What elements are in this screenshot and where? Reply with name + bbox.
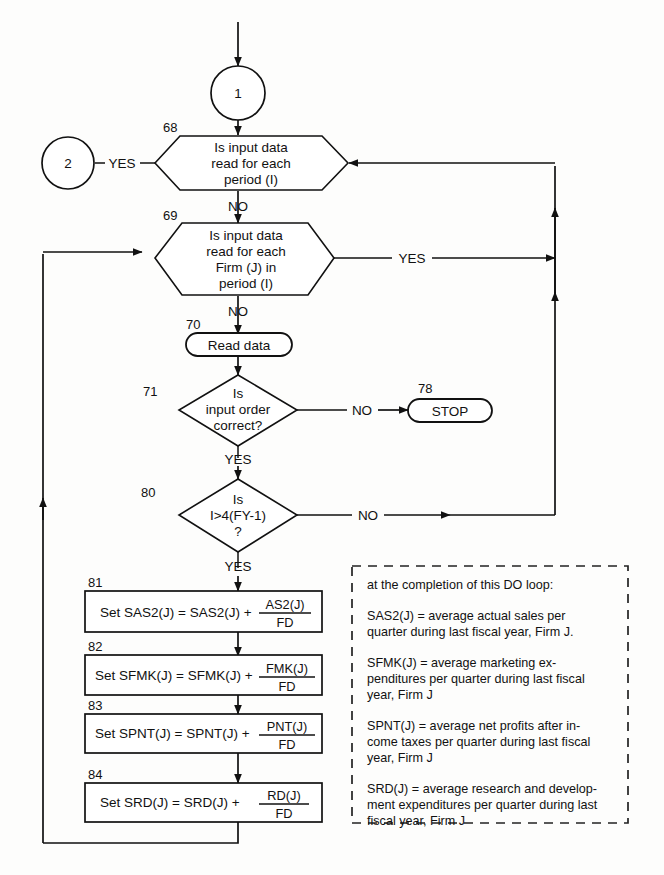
node-80-line-1: Is xyxy=(233,492,244,507)
connector-1-label: 1 xyxy=(234,86,242,101)
node-68-step: 68 xyxy=(163,120,177,135)
node-83-numerator: PNT(J) xyxy=(267,719,308,734)
node-71[interactable]: 71 Is input order correct? xyxy=(143,375,297,446)
node-70[interactable]: 70 Read data xyxy=(186,317,292,356)
node-82-expression: Set SFMK(J) = SFMK(J) + xyxy=(95,668,253,683)
node-83-denominator: FD xyxy=(278,737,295,752)
edge-label-71-yes: YES xyxy=(224,452,251,467)
node-68-line-1: Is input data xyxy=(214,140,288,155)
node-82-step: 82 xyxy=(88,639,102,654)
flowchart-canvas: 1 2 YES 68 Is input data read for each p… xyxy=(0,0,664,875)
node-84-expression: Set SRD(J) = SRD(J) + xyxy=(100,795,240,810)
note-entry-2-line-1: SFMK(J) = average marketing ex- xyxy=(367,656,556,670)
node-80-line-3: ? xyxy=(234,524,242,539)
edge-label-69-yes: YES xyxy=(398,251,425,266)
edge-label-68-yes: YES xyxy=(108,156,135,171)
note-entry-4-line-2: ment expenditures per quarter during las… xyxy=(367,798,598,812)
node-78-stop[interactable]: 78 STOP xyxy=(408,381,492,422)
node-83-step: 83 xyxy=(88,698,102,713)
node-69-line-2: read for each xyxy=(206,244,286,259)
node-81-step: 81 xyxy=(88,575,102,590)
edge-label-71-no: NO xyxy=(352,403,372,418)
node-84-step: 84 xyxy=(88,767,102,782)
node-71-line-2: input order xyxy=(206,402,271,417)
node-82-numerator: FMK(J) xyxy=(266,661,308,676)
edge-label-68-no: NO xyxy=(228,199,248,214)
connector-circle-1[interactable]: 1 xyxy=(211,66,265,120)
connector-2-label: 2 xyxy=(64,156,72,171)
node-83[interactable]: 83 Set SPNT(J) = SPNT(J) + PNT(J) FD xyxy=(85,698,322,753)
flowchart-svg: 1 2 YES 68 Is input data read for each p… xyxy=(0,0,664,875)
node-81-numerator: AS2(J) xyxy=(265,597,304,612)
annotation-note-box: at the completion of this DO loop: SAS2(… xyxy=(352,566,628,828)
node-84[interactable]: 84 Set SRD(J) = SRD(J) + RD(J) FD xyxy=(85,767,322,822)
note-entry-3-line-3: year, Firm J xyxy=(367,751,433,765)
node-82[interactable]: 82 Set SFMK(J) = SFMK(J) + FMK(J) FD xyxy=(85,639,322,695)
edge-label-80-yes: YES xyxy=(224,559,251,574)
note-entry-2-line-3: year, Firm J xyxy=(367,688,433,702)
edge-label-69-no: NO xyxy=(228,304,248,319)
node-81-expression: Set SAS2(J) = SAS2(J) + xyxy=(100,605,252,620)
node-69-line-3: Firm (J) in xyxy=(216,260,277,275)
note-entry-1-line-2: quarter during last fiscal year, Firm J. xyxy=(367,625,573,639)
node-82-denominator: FD xyxy=(278,679,295,694)
node-80-line-2: I>4(FY-1) xyxy=(210,508,266,523)
note-entry-4-line-1: SRD(J) = average research and develop- xyxy=(367,782,597,796)
note-heading: at the completion of this DO loop: xyxy=(367,578,553,592)
node-69[interactable]: 69 Is input data read for each Firm (J) … xyxy=(155,208,334,295)
edge-84-to-left-loop xyxy=(43,822,238,843)
note-entry-3-line-1: SPNT(J) = average net profits after in- xyxy=(367,719,580,733)
node-68-line-2: read for each xyxy=(211,156,291,171)
node-83-expression: Set SPNT(J) = SPNT(J) + xyxy=(95,726,250,741)
node-81[interactable]: 81 Set SAS2(J) = SAS2(J) + AS2(J) FD xyxy=(85,575,322,632)
node-70-label: Read data xyxy=(208,338,271,353)
node-78-step: 78 xyxy=(418,381,432,396)
note-entry-3-line-2: come taxes per quarter during last fisca… xyxy=(367,735,590,749)
node-78-label: STOP xyxy=(432,404,469,419)
node-68-line-3: period (I) xyxy=(224,172,278,187)
connector-circle-2[interactable]: 2 xyxy=(42,137,94,189)
node-81-denominator: FD xyxy=(276,615,293,630)
note-entry-4-line-3: fiscal year, Firm J xyxy=(367,814,465,828)
node-84-numerator: RD(J) xyxy=(267,788,300,803)
node-68[interactable]: 68 Is input data read for each period (I… xyxy=(155,120,348,190)
node-69-step: 69 xyxy=(163,208,177,223)
node-71-step: 71 xyxy=(143,384,157,399)
note-entry-1-line-1: SAS2(J) = average actual sales per xyxy=(367,609,565,623)
node-71-line-1: Is xyxy=(233,386,244,401)
node-70-step: 70 xyxy=(186,317,200,332)
edge-label-80-no: NO xyxy=(358,508,378,523)
node-71-line-3: correct? xyxy=(214,418,263,433)
node-69-line-4: period (I) xyxy=(219,276,273,291)
node-80-step: 80 xyxy=(141,485,155,500)
node-80[interactable]: 80 Is I>4(FY-1) ? xyxy=(141,479,297,552)
node-69-line-1: Is input data xyxy=(209,228,283,243)
node-84-denominator: FD xyxy=(275,806,292,821)
note-entry-2-line-2: penditures per quarter during last fisca… xyxy=(367,672,585,686)
